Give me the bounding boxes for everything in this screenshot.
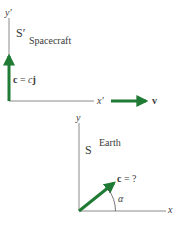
light-vector-earth (79, 183, 114, 211)
frame-name-earth: Earth (99, 138, 121, 148)
light-vector-earth-label: c = ? (117, 174, 137, 184)
unit-vector-j: j (33, 74, 36, 85)
equals-sign: = (17, 74, 28, 85)
unknown-value: = ? (121, 173, 136, 184)
frame-name-spacecraft: Spacecraft (29, 36, 71, 46)
diagram-canvas (0, 0, 182, 225)
frame-label-s-prime: S′ (16, 27, 25, 39)
velocity-label: v (152, 96, 157, 106)
light-vector-spacecraft-label: c = cj (13, 75, 36, 85)
angle-arc (108, 189, 116, 211)
y-prime-axis-label: y′ (5, 8, 12, 18)
x-axis-label: x (168, 205, 172, 215)
y-axis-label: y (76, 113, 80, 123)
angle-alpha-label: α (118, 194, 123, 204)
x-prime-axis-label: x′ (97, 96, 104, 106)
frame-label-s: S (85, 144, 92, 156)
